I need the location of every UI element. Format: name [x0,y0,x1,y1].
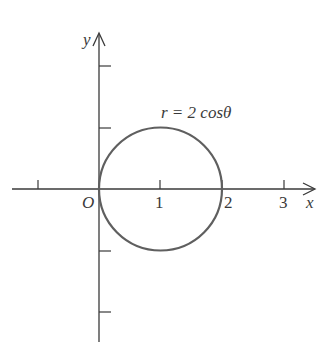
x-tick-label-1: 1 [155,193,164,212]
x-tick-label-3: 3 [279,193,288,212]
polar-plot: y x O 1 2 3 r = 2 cosθ [0,0,327,364]
curve-equation-label: r = 2 cosθ [161,103,231,122]
x-tick-label-2: 2 [224,193,233,212]
y-axis-label: y [81,30,91,49]
origin-label: O [82,193,94,212]
x-axis-label: x [305,193,314,212]
